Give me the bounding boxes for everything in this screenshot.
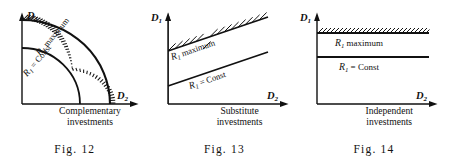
figure-14-plot: R1 maximum R1 = Const D1 D2: [299, 0, 449, 161]
figure-14-subcaption-line2: investments: [334, 117, 444, 128]
figure-14-subcaption: Independent investments: [334, 106, 444, 127]
figure-13: R1 maximum R1 = Const D1 D2 Substitute i…: [150, 0, 300, 161]
figure-14-number: Fig. 14: [299, 143, 449, 155]
figure-12-subcaption-line2: investments: [30, 117, 150, 128]
figure-13-subcaption: Substitute investments: [185, 106, 295, 127]
figure-12-number: Fig. 12: [0, 143, 150, 155]
fig14-y-axis-label: D1: [299, 12, 311, 25]
fig13-hatching: [168, 13, 267, 51]
figure-row: R1 maximum R1 = Const D1 D2 Complementar…: [0, 0, 449, 161]
fig14-curve-labels: R1 maximum R1 = Const: [334, 37, 383, 73]
fig14-label-const-symbol: R: [338, 61, 345, 72]
fig14-label-const: R1 = Const: [338, 61, 379, 73]
fig12-x-axis-label: D2: [116, 90, 129, 103]
figure-12-plot: R1 maximum R1 = Const D1 D2: [0, 0, 150, 161]
figure-13-subcaption-line1: Substitute: [185, 106, 295, 117]
fig13-x-axis-label: D2: [266, 90, 279, 103]
figure-12-subcaption-line1: Complementary: [30, 106, 150, 117]
figure-13-subcaption-line2: investments: [185, 117, 295, 128]
figure-14-subcaption-line1: Independent: [334, 106, 444, 117]
figure-13-plot: R1 maximum R1 = Const D1 D2: [150, 0, 300, 161]
fig13-axis-labels: D1 D2: [150, 12, 279, 103]
fig14-y-axis-arrowhead: [314, 13, 320, 21]
figure-14: R1 maximum R1 = Const D1 D2 Independent …: [299, 0, 449, 161]
fig12-curve-const: [22, 48, 80, 104]
fig14-x-axis-label: D2: [415, 90, 428, 103]
fig13-label-maximum: R1 maximum: [168, 37, 216, 63]
figure-12: R1 maximum R1 = Const D1 D2 Complementar…: [0, 0, 150, 161]
fig14-label-maximum: R1 maximum: [334, 37, 383, 49]
figure-12-subcaption: Complementary investments: [30, 106, 150, 127]
figure-13-number: Fig. 13: [150, 143, 300, 155]
fig14-label-maximum-symbol: R: [334, 37, 341, 48]
